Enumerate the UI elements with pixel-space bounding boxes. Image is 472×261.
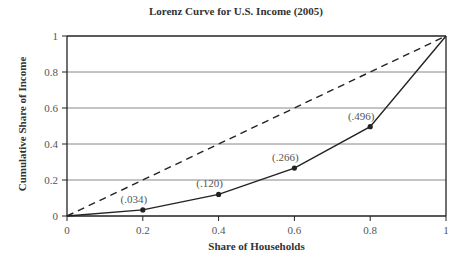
annotations: (.034)(.120)(.266)(.496) (121, 110, 375, 206)
data-point (216, 192, 221, 197)
y-tick-label: 0 (53, 210, 59, 222)
data-label: (.120) (196, 177, 223, 190)
data-point (140, 207, 145, 212)
x-tick-label: 0.4 (212, 224, 226, 236)
y-tick-label: 0.6 (44, 102, 58, 114)
data-point (368, 124, 373, 129)
data-label: (.266) (272, 151, 299, 164)
x-tick-label: 0.8 (363, 224, 377, 236)
x-tick-label: 0.2 (136, 224, 150, 236)
gridlines (67, 36, 446, 180)
equality-line (67, 36, 446, 216)
tick-labels: 00.20.40.60.8100.20.40.60.81 (44, 30, 449, 236)
data-label: (.034) (121, 193, 148, 206)
y-tick-label: 1 (53, 30, 59, 42)
y-tick-label: 0.2 (44, 174, 58, 186)
x-tick-label: 0 (64, 224, 70, 236)
data-label: (.496) (348, 110, 375, 123)
y-tick-label: 0.8 (44, 66, 58, 78)
lorenz-chart: 00.20.40.60.8100.20.40.60.81 (.034)(.120… (0, 0, 472, 261)
data-point (292, 166, 297, 171)
y-tick-label: 0.4 (44, 138, 58, 150)
x-tick-label: 1 (443, 224, 449, 236)
x-tick-label: 0.6 (288, 224, 302, 236)
data-series (67, 36, 446, 216)
